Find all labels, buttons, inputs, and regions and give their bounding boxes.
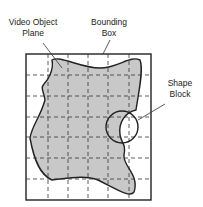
bbox-label-line2: Box	[84, 28, 134, 39]
shape-block-label: Shape Block	[160, 78, 200, 100]
vop-label-line1: Video Object	[0, 17, 66, 28]
shape-label-line1: Shape	[160, 78, 200, 89]
bbox-label-line1: Bounding	[84, 17, 134, 28]
bbox-label: Bounding Box	[84, 17, 134, 39]
video-object-plane-shape	[30, 59, 141, 194]
shape-label-line2: Block	[160, 89, 200, 100]
vop-label: Video Object Plane	[0, 17, 66, 39]
vop-label-line2: Plane	[0, 28, 66, 39]
bbox-leader-line	[103, 40, 110, 54]
